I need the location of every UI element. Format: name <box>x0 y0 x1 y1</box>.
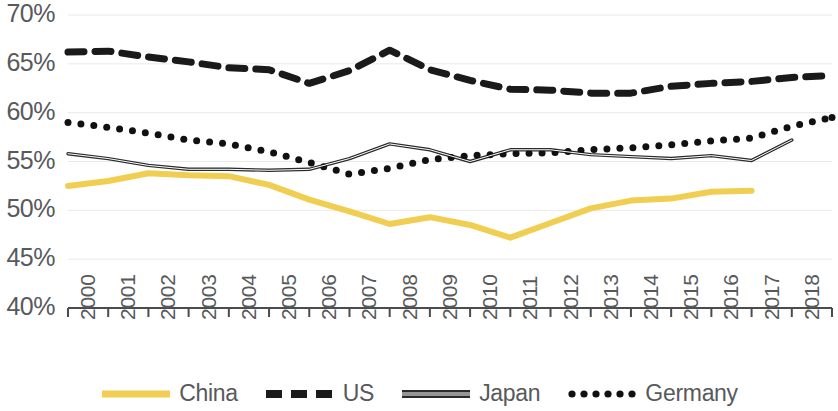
y-axis-tick-label: 40% <box>6 292 55 321</box>
legend-label-japan: Japan <box>479 380 540 407</box>
legend-item-china[interactable]: China <box>100 380 238 407</box>
x-axis-tick-label: 2012 <box>559 274 583 320</box>
x-axis-tick-label: 2002 <box>156 274 180 320</box>
x-axis-tick-label: 2007 <box>357 274 381 320</box>
y-axis-tick-label: 55% <box>6 146 55 175</box>
x-axis-tick-label: 2005 <box>277 274 301 320</box>
legend-swatch-us <box>264 386 336 402</box>
legend-swatch-china <box>100 386 172 402</box>
series-line-us <box>68 50 832 93</box>
y-axis-tick-label: 70% <box>6 0 55 28</box>
x-axis-tick-label: 2008 <box>398 274 422 320</box>
x-axis-tick-label: 2017 <box>760 274 784 320</box>
legend-item-us[interactable]: US <box>264 380 374 407</box>
x-axis-tick-label: 2014 <box>639 274 663 320</box>
chart-legend: ChinaUSJapanGermany <box>0 376 838 411</box>
x-axis-tick-label: 2016 <box>719 274 743 320</box>
x-axis-tick-label: 2011 <box>518 276 542 320</box>
x-axis-tick-label: 2018 <box>800 274 824 320</box>
x-axis-tick-label: 2010 <box>478 274 502 320</box>
x-axis-tick-label: 2000 <box>76 274 100 320</box>
x-axis-tick-label: 2013 <box>599 274 623 320</box>
line-chart: 70%65%60%55%50%45%40% 200020012002200320… <box>0 0 838 411</box>
plot-area <box>0 0 838 411</box>
y-axis-tick-label: 60% <box>6 97 55 126</box>
y-axis-tick-label: 45% <box>6 243 55 272</box>
legend-swatch-germany <box>566 386 638 402</box>
y-axis-tick-label: 65% <box>6 48 55 77</box>
y-axis-tick-label: 50% <box>6 194 55 223</box>
x-axis-tick-label: 2009 <box>438 274 462 320</box>
series-line-china <box>68 173 752 237</box>
x-axis-tick-label: 2015 <box>679 274 703 320</box>
legend-label-us: US <box>343 380 374 407</box>
x-axis-tick-label: 2006 <box>317 274 341 320</box>
legend-label-germany: Germany <box>645 380 737 407</box>
x-axis-tick-label: 2004 <box>237 274 261 320</box>
legend-label-china: China <box>179 380 238 407</box>
x-axis-tick-label: 2003 <box>197 274 221 320</box>
legend-swatch-japan <box>400 386 472 402</box>
legend-item-japan[interactable]: Japan <box>400 380 540 407</box>
x-axis-tick-label: 2001 <box>116 274 140 320</box>
legend-item-germany[interactable]: Germany <box>566 380 737 407</box>
